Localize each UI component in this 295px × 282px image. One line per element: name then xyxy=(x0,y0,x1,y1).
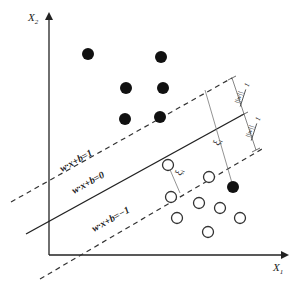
lower-margin-equation: w·x+b=−1 xyxy=(90,204,132,234)
margin-tick-mid xyxy=(240,112,248,116)
hollow-data-point xyxy=(235,213,246,224)
hollow-data-point xyxy=(163,160,174,171)
filled-data-point xyxy=(154,111,166,123)
slack-label-hollow: ξi xyxy=(172,167,185,177)
margin-tick-top xyxy=(228,76,236,80)
hyperplane-equation: w·x+b=0 xyxy=(70,169,106,196)
hollow-data-point xyxy=(166,192,177,203)
filled-data-point xyxy=(82,48,94,60)
hollow-data-point xyxy=(194,198,205,209)
filled-data-point xyxy=(155,51,167,63)
filled-data-point xyxy=(157,82,169,94)
filled-data-point xyxy=(120,82,132,94)
filled-points-group xyxy=(82,48,239,193)
svm-diagram: X2 X1 w·x+b=1 w·x+b=0 w·x+b=−1 ||w|| 1 |… xyxy=(0,0,295,282)
lower-margin-width-label: ||w|| 1 xyxy=(244,115,263,142)
upper-margin-width-label: ||w|| 1 xyxy=(233,81,252,108)
lower-margin-line xyxy=(40,149,262,279)
x1-axis-label: X1 xyxy=(272,261,283,276)
svg-text:1: 1 xyxy=(254,116,263,122)
x2-axis-label: X2 xyxy=(27,11,39,26)
hollow-data-point xyxy=(204,172,215,183)
svg-text:1: 1 xyxy=(243,82,252,88)
upper-margin-equation: w·x+b=1 xyxy=(58,147,94,174)
filled-data-point xyxy=(119,113,131,125)
filled-data-point xyxy=(227,181,239,193)
slack-line-filled xyxy=(205,90,232,183)
hollow-data-point xyxy=(215,203,226,214)
slack-label-filled: ξi xyxy=(210,137,223,147)
upper-margin-line xyxy=(11,78,232,202)
hollow-data-point xyxy=(203,227,214,238)
hollow-data-point xyxy=(172,213,183,224)
